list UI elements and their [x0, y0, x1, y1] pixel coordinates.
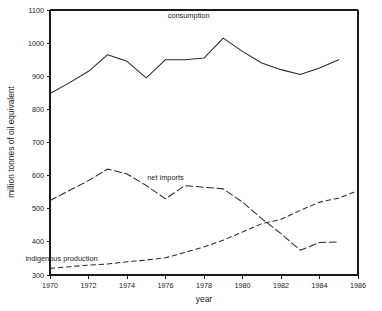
y-axis-tick-label: 700 [32, 138, 44, 147]
series-label-net-imports: net imports [147, 173, 184, 182]
y-axis-tick-label: 900 [32, 72, 44, 81]
x-axis-tick-label: 1984 [312, 281, 328, 290]
y-axis-tick-label: 400 [32, 237, 44, 246]
x-axis-tick-label: 1982 [273, 281, 289, 290]
x-axis-tick-label: 1978 [196, 281, 212, 290]
line-chart: 30040050060070080090010001100 1970197219… [0, 0, 382, 311]
y-axis-tick-label: 600 [32, 171, 44, 180]
chart-container: 30040050060070080090010001100 1970197219… [0, 0, 382, 311]
x-axis-tick-label: 1986 [350, 281, 366, 290]
series-label-indigenous-production: indigenous production [25, 254, 97, 263]
y-axis-tick-label: 1100 [29, 6, 44, 15]
y-axis-title: million tonnes of oil equivalent [6, 85, 16, 197]
chart-background [0, 0, 382, 311]
x-axis-tick-label: 1970 [42, 281, 58, 290]
x-axis-tick-label: 1976 [158, 281, 174, 290]
y-axis-tick-label: 300 [32, 271, 44, 280]
y-axis-tick-label: 800 [32, 105, 44, 114]
series-label-consumption: consumption [168, 11, 210, 20]
x-axis-tick-label: 1974 [119, 281, 135, 290]
x-axis-tick-label: 1980 [235, 281, 251, 290]
x-axis-title: year [196, 294, 213, 304]
y-axis-tick-label: 1000 [28, 39, 44, 48]
x-axis-tick-label: 1972 [81, 281, 97, 290]
y-axis-tick-label: 500 [32, 204, 44, 213]
